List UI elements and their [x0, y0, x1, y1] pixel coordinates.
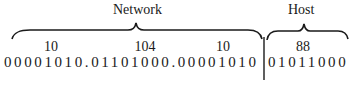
network-binary: 00001010.01101000.00001010: [4, 55, 259, 70]
network-octet-1-decimal: 10: [44, 40, 58, 54]
host-label: Host: [288, 3, 314, 17]
host-binary: 01011000: [268, 55, 348, 70]
network-brace: [12, 23, 262, 39]
host-brace: [267, 24, 348, 40]
host-octet-decimal: 88: [296, 40, 310, 54]
network-octet-2-decimal: 104: [135, 40, 156, 54]
network-octet-3-decimal: 10: [216, 40, 230, 54]
network-label: Network: [113, 3, 162, 17]
